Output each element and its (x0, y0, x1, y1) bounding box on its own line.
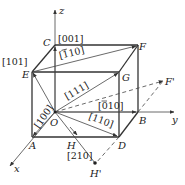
point-H-prime-dot (93, 161, 97, 165)
point-B-label: B (138, 115, 146, 126)
point-F-label: F (138, 41, 147, 52)
z-axis-label: z (58, 5, 65, 16)
label-1bar10: [110] (58, 44, 85, 61)
edge-GF (119, 45, 138, 72)
point-F-prime-label: F' (164, 76, 175, 87)
svg-text:[110]: [110] (58, 44, 85, 61)
label-101: [101] (2, 56, 28, 67)
point-O-label: O (50, 117, 58, 128)
label-0bar10: [010] (98, 100, 124, 111)
label-110: [110] (87, 111, 115, 130)
crystal-direction-diagram: z y x C F E G F' O B A H D H' [001] [101… (0, 0, 185, 185)
label-210: [210] (67, 150, 93, 161)
point-H-prime-label: H' (89, 168, 101, 179)
vector-210-arrow (70, 127, 77, 135)
point-E-label: E (21, 69, 30, 80)
point-D-label: D (117, 140, 126, 151)
x-axis-label: x (14, 163, 20, 174)
point-C-label: C (43, 37, 51, 48)
edge-EC (32, 45, 55, 72)
dashed-DH-prime (96, 137, 119, 163)
point-A-label: A (28, 140, 36, 151)
point-G-label: G (122, 72, 130, 83)
svg-text:[010]: [010] (98, 100, 124, 111)
label-001: [001] (58, 33, 84, 44)
dashed-BF-prime (138, 81, 163, 112)
edge-DB (119, 112, 138, 137)
y-axis-label: y (171, 114, 178, 125)
